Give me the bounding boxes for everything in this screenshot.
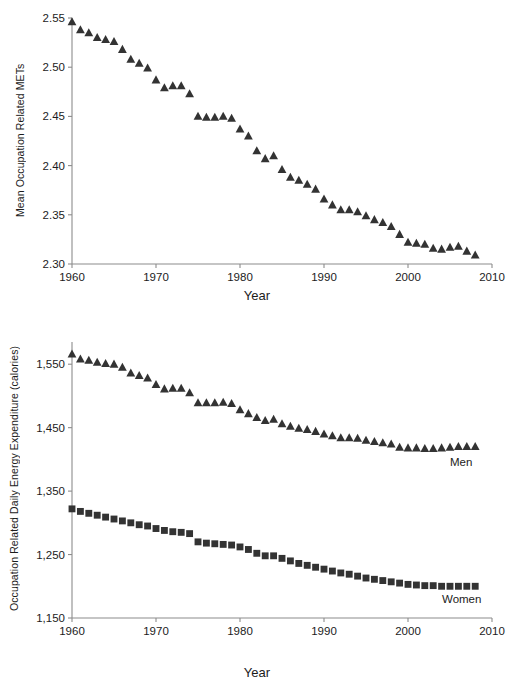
mets-y-tick-3: 2.45 bbox=[25, 110, 65, 122]
data-point bbox=[178, 529, 185, 536]
data-point bbox=[412, 239, 421, 247]
data-point bbox=[227, 399, 236, 407]
mets-y-tick-5: 2.55 bbox=[25, 12, 65, 24]
data-point bbox=[294, 424, 303, 432]
data-point bbox=[278, 419, 287, 427]
mets-x-tick-4: 2000 bbox=[395, 271, 421, 283]
data-point bbox=[437, 245, 446, 253]
energy-x-tick-4: 2000 bbox=[395, 625, 421, 637]
data-point bbox=[312, 564, 319, 571]
data-point bbox=[462, 247, 471, 255]
energy-x-tick-2: 1980 bbox=[227, 625, 253, 637]
data-point bbox=[203, 540, 210, 547]
data-point bbox=[152, 380, 161, 388]
data-point bbox=[252, 146, 261, 154]
data-point bbox=[195, 538, 202, 545]
data-point bbox=[185, 89, 194, 97]
mets-figure: Mean Occupation Related METs 2.302.352.4… bbox=[0, 0, 514, 320]
data-point bbox=[462, 442, 471, 450]
mets-y-axis-title: Mean Occupation Related METs bbox=[14, 20, 26, 260]
data-point bbox=[219, 112, 228, 120]
data-point bbox=[244, 131, 253, 139]
data-point bbox=[412, 443, 421, 451]
data-point bbox=[185, 388, 194, 396]
data-point bbox=[118, 363, 127, 371]
data-point bbox=[430, 582, 437, 589]
data-point bbox=[446, 443, 455, 451]
mets-x-tick-1: 1970 bbox=[143, 271, 169, 283]
data-point bbox=[135, 59, 144, 67]
data-point bbox=[177, 81, 186, 89]
mets-y-tick-1: 2.35 bbox=[25, 209, 65, 221]
data-point bbox=[346, 571, 353, 578]
data-point bbox=[378, 218, 387, 226]
data-point bbox=[118, 45, 127, 53]
data-point bbox=[362, 436, 371, 444]
data-point bbox=[454, 242, 463, 250]
data-point bbox=[135, 371, 144, 379]
data-point bbox=[76, 25, 85, 33]
data-point bbox=[472, 583, 479, 590]
data-point bbox=[194, 398, 203, 406]
data-point bbox=[161, 527, 168, 534]
data-point bbox=[111, 516, 118, 523]
data-point bbox=[160, 83, 169, 91]
data-point bbox=[345, 205, 354, 213]
energy-y-tick-0: 1,150 bbox=[17, 612, 65, 624]
data-point bbox=[421, 582, 428, 589]
data-point bbox=[429, 244, 438, 252]
data-point bbox=[244, 409, 253, 417]
series-label-men: Men bbox=[450, 456, 472, 468]
data-point bbox=[93, 358, 102, 366]
energy-y-tick-2: 1,350 bbox=[17, 485, 65, 497]
data-point bbox=[77, 508, 84, 515]
data-point bbox=[126, 368, 135, 376]
data-point bbox=[353, 434, 362, 442]
energy-x-tick-3: 1990 bbox=[311, 625, 337, 637]
data-point bbox=[252, 413, 261, 421]
data-point bbox=[202, 113, 211, 121]
energy-plot-area: Occupation Related Daily Energy Expendit… bbox=[0, 320, 514, 695]
data-point bbox=[202, 398, 211, 406]
data-point bbox=[336, 205, 345, 213]
data-point bbox=[169, 528, 176, 535]
data-point bbox=[320, 194, 329, 202]
data-point bbox=[110, 37, 119, 45]
mets-plot-area: Mean Occupation Related METs 2.302.352.4… bbox=[0, 0, 514, 320]
mets-y-tick-4: 2.50 bbox=[25, 61, 65, 73]
data-point bbox=[337, 570, 344, 577]
data-point bbox=[471, 442, 480, 450]
data-point bbox=[168, 384, 177, 392]
data-point bbox=[311, 427, 320, 435]
data-point bbox=[404, 443, 413, 451]
data-point bbox=[236, 405, 245, 413]
data-point bbox=[261, 154, 270, 162]
data-point bbox=[463, 583, 470, 590]
data-point bbox=[446, 243, 455, 251]
data-point bbox=[153, 525, 160, 532]
data-point bbox=[220, 541, 227, 548]
data-point bbox=[168, 81, 177, 89]
data-point bbox=[84, 356, 93, 364]
data-point bbox=[85, 510, 92, 517]
energy-figure: Occupation Related Daily Energy Expendit… bbox=[0, 320, 514, 695]
data-point bbox=[102, 514, 109, 521]
data-point bbox=[152, 75, 161, 83]
data-point bbox=[177, 384, 186, 392]
data-point bbox=[101, 359, 110, 367]
series-label-women: Women bbox=[442, 593, 481, 605]
data-point bbox=[278, 165, 287, 173]
energy-y-axis-title: Occupation Related Daily Energy Expendit… bbox=[8, 328, 20, 628]
energy-x-tick-5: 2010 bbox=[479, 625, 505, 637]
data-point bbox=[236, 125, 245, 133]
data-point bbox=[261, 416, 270, 424]
data-point bbox=[388, 578, 395, 585]
data-point bbox=[110, 360, 119, 368]
data-point bbox=[270, 552, 277, 559]
mets-x-tick-2: 1980 bbox=[227, 271, 253, 283]
data-point bbox=[321, 566, 328, 573]
mets-x-tick-3: 1990 bbox=[311, 271, 337, 283]
data-point bbox=[237, 544, 244, 551]
data-point bbox=[420, 240, 429, 248]
data-point bbox=[447, 583, 454, 590]
